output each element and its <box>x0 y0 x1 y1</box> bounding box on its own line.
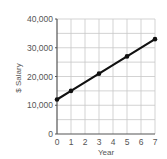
y-tick-label: 10,000 <box>27 100 53 110</box>
x-tick-label: 2 <box>83 137 88 147</box>
y-axis-ticks: 010,00020,00030,00040,000 <box>27 14 57 139</box>
data-series <box>55 37 158 102</box>
x-tick-label: 6 <box>139 137 144 147</box>
data-point-marker <box>55 97 60 102</box>
data-point-marker <box>125 54 130 59</box>
x-tick-label: 1 <box>69 137 74 147</box>
data-point-marker <box>97 71 102 76</box>
y-tick-label: 30,000 <box>27 43 53 53</box>
y-axis-title: $ Salary <box>14 63 23 92</box>
x-tick-label: 3 <box>97 137 102 147</box>
grid-lines <box>57 19 155 134</box>
x-tick-label: 4 <box>111 137 116 147</box>
x-axis-title: Year <box>98 148 115 157</box>
y-tick-label: 20,000 <box>27 72 53 82</box>
salary-line-chart: 010,00020,00030,00040,000 01234567 $ Sal… <box>0 0 167 159</box>
x-tick-label: 7 <box>153 137 158 147</box>
x-axis-ticks: 01234567 <box>55 137 158 147</box>
x-tick-label: 5 <box>125 137 130 147</box>
data-point-marker <box>153 37 158 42</box>
x-tick-label: 0 <box>55 137 60 147</box>
data-point-marker <box>69 89 74 94</box>
y-tick-label: 0 <box>48 129 53 139</box>
y-tick-label: 40,000 <box>27 14 53 24</box>
